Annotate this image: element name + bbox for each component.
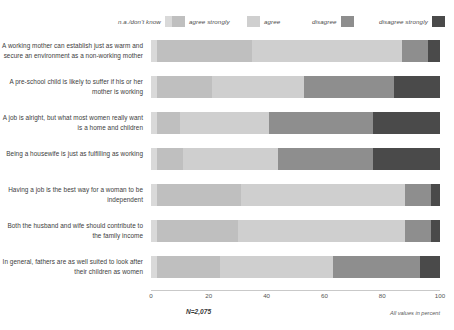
bar-segment — [278, 148, 373, 170]
stacked-bar — [151, 76, 440, 98]
stacked-bar — [151, 220, 440, 242]
legend-label: agree strongly — [189, 16, 230, 27]
bar-segment — [304, 76, 394, 98]
bar-segment — [373, 148, 439, 170]
stacked-bar — [151, 256, 440, 278]
category-label: In general, fathers are as well suited t… — [0, 257, 143, 276]
legend-label: disagree — [312, 16, 337, 27]
bar-segment — [157, 112, 180, 134]
category-label: A job is alright, but what most women re… — [0, 113, 143, 132]
legend-swatch-icon — [247, 16, 260, 27]
bar-segment — [183, 148, 278, 170]
x-axis-tick-label: 40 — [263, 292, 270, 299]
legend-swatch-icon — [432, 16, 445, 27]
legend-label: disagree strongly — [379, 16, 428, 27]
legend-entry-2[interactable]: agree — [247, 14, 280, 28]
bar-segment — [157, 148, 183, 170]
bar-segment — [405, 220, 431, 242]
bar-segment — [428, 40, 440, 62]
chart-bar-row[interactable] — [151, 76, 440, 98]
legend-label: n.a./don't know — [118, 16, 161, 27]
bar-segment — [157, 184, 241, 206]
x-axis-ticks: 020406080100 — [151, 292, 440, 304]
chart-bar-row[interactable] — [151, 40, 440, 62]
units-note: All values in percent — [390, 310, 440, 316]
x-axis-tick-label: 20 — [205, 292, 212, 299]
stacked-bar — [151, 184, 440, 206]
bar-segment — [180, 112, 270, 134]
bar-segment — [431, 184, 440, 206]
bar-segment — [402, 40, 428, 62]
bar-segment — [157, 256, 221, 278]
legend-swatch-icon — [172, 16, 185, 27]
x-axis-tick-label: 0 — [149, 292, 152, 299]
chart-bar-row[interactable] — [151, 256, 440, 278]
survey-stacked-bar-chart: n.a./don't knowagree stronglyagreedisagr… — [0, 0, 454, 330]
x-axis-baseline — [151, 290, 440, 291]
stacked-bar — [151, 112, 440, 134]
bar-segment — [157, 40, 252, 62]
stacked-bar — [151, 148, 440, 170]
bar-segment — [241, 184, 406, 206]
bar-segment — [269, 112, 373, 134]
stacked-bar — [151, 40, 440, 62]
category-label: A pre-school child is likely to suffer i… — [0, 77, 143, 96]
chart-legend: n.a./don't knowagree stronglyagreedisagr… — [0, 14, 454, 30]
bar-segment — [212, 76, 304, 98]
category-label: Being a housewife is just as fulfilling … — [0, 149, 143, 159]
bar-segment — [394, 76, 440, 98]
bar-segment — [420, 256, 440, 278]
legend-label: agree — [264, 16, 280, 27]
x-axis-tick-label: 80 — [379, 292, 386, 299]
bar-segment — [157, 76, 212, 98]
bar-segment — [405, 184, 431, 206]
category-label: Having a job is the best way for a woman… — [0, 185, 143, 204]
bar-segment — [157, 220, 238, 242]
bar-segment — [252, 40, 402, 62]
bar-segment — [238, 220, 406, 242]
x-axis-tick-label: 100 — [435, 292, 445, 299]
bar-segment — [333, 256, 420, 278]
sample-size-note: N=2,075 — [186, 308, 211, 315]
chart-bar-row[interactable] — [151, 112, 440, 134]
chart-bar-row[interactable] — [151, 148, 440, 170]
category-label: Both the husband and wife should contrib… — [0, 221, 143, 240]
category-label: A working mother can establish just as w… — [0, 41, 143, 60]
plot-area: A working mother can establish just as w… — [151, 38, 440, 290]
bar-segment — [220, 256, 333, 278]
legend-entry-3[interactable]: disagree — [312, 14, 354, 28]
legend-entry-0[interactable]: n.a./don't know — [118, 14, 178, 28]
bar-segment — [431, 220, 440, 242]
x-axis-tick-label: 60 — [321, 292, 328, 299]
legend-swatch-icon — [341, 16, 354, 27]
legend-entry-1[interactable]: agree strongly — [172, 14, 230, 28]
legend-entry-4[interactable]: disagree strongly — [379, 14, 445, 28]
bar-segment — [373, 112, 439, 134]
chart-bar-row[interactable] — [151, 184, 440, 206]
chart-bar-row[interactable] — [151, 220, 440, 242]
